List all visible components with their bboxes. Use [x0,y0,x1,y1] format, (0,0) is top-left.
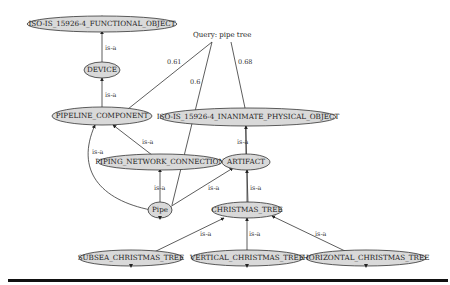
svg-text:ARTIFACT: ARTIFACT [226,157,265,166]
edge-label: is-a [250,184,262,192]
node-pipe[interactable]: Pipe [148,202,172,218]
svg-text:Pipe: Pipe [152,205,168,214]
svg-text:VERTICAL_CHRISTMAS_TREE: VERTICAL_CHRISTMAS_TREE [189,253,304,262]
svg-text:PIPING_NETWORK_CONNECTION: PIPING_NETWORK_CONNECTION [95,157,225,166]
score-label: 0.6 [190,78,200,86]
edge-label: is-a [315,230,327,238]
edge-label: is-a [208,184,220,192]
edge-label: is-a [142,138,154,146]
node-device[interactable]: DEVICE [84,62,120,78]
node-horizontal-christmas-tree[interactable]: HORIZONTAL_CHRISTMAS_TREE [302,250,429,266]
svg-text:SUBSEA_CHRISTMAS_TREE: SUBSEA_CHRISTMAS_TREE [78,253,185,262]
svg-text:DEVICE: DEVICE [87,65,117,74]
svg-text:PIPELINE_COMPONENT: PIPELINE_COMPONENT [56,111,149,120]
edge-label: is-a [92,148,104,156]
node-piping-network-connection[interactable]: PIPING_NETWORK_CONNECTION [95,154,225,170]
bottom-divider [8,279,448,282]
edge-label: is-a [105,91,117,99]
score-label: 0.61 [167,58,181,66]
edge-label: is-a [154,184,166,192]
query-label: Query: pipe tree [193,31,251,39]
node-inanimate-physical-object[interactable]: ISO-IS_15926-4_INANIMATE_PHYSICAL_OBJECT [157,108,340,126]
node-pipeline-component[interactable]: PIPELINE_COMPONENT [52,107,152,125]
node-functional-object[interactable]: ISO-IS_15926-4_FUNCTIONAL_OBJECT [27,16,177,32]
svg-text:ISO-IS_15926-4_INANIMATE_PHYSI: ISO-IS_15926-4_INANIMATE_PHYSICAL_OBJECT [157,112,340,121]
edge-horizontal-christmas-tree [272,216,345,251]
edge-label: is-a [105,44,117,52]
svg-text:CHRISTMAS_TREE: CHRISTMAS_TREE [211,205,283,214]
node-vertical-christmas-tree[interactable]: VERTICAL_CHRISTMAS_TREE [189,250,304,266]
node-subsea-christmas-tree[interactable]: SUBSEA_CHRISTMAS_TREE [78,250,185,266]
edge-label: is-a [249,230,261,238]
edge-label: is-a [200,230,212,238]
edge-label: is-a [237,138,249,146]
edge-query-pipeline-component [128,42,212,109]
svg-text:HORIZONTAL_CHRISTMAS_TREE: HORIZONTAL_CHRISTMAS_TREE [302,253,429,262]
node-artifact[interactable]: ARTIFACT [222,154,270,170]
ontology-graph: is-a is-a 0.61 0.6 0.68 is-a is-a is-a i… [0,0,450,285]
node-christmas-tree[interactable]: CHRISTMAS_TREE [211,202,283,218]
score-label: 0.68 [238,58,252,66]
svg-text:ISO-IS_15926-4_FUNCTIONAL_OBJE: ISO-IS_15926-4_FUNCTIONAL_OBJECT [29,19,176,28]
edge-subsea-christmas-tree [150,218,224,254]
